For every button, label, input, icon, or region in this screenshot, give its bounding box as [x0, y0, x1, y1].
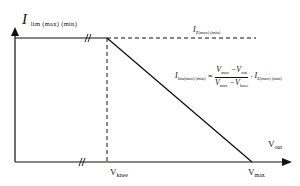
x-axis-arrow-icon — [282, 158, 292, 166]
formula-fraction: Vmax −Vout Vmax −Vknee — [215, 66, 248, 88]
tick-label-vmax: Vmax — [248, 168, 265, 178]
y-axis-arrow-icon — [11, 27, 19, 36]
x-axis-label: Vout — [268, 140, 282, 150]
top-line-label: IZ(max) (min) — [193, 26, 220, 36]
falloff-line — [107, 38, 252, 162]
limit-formula: Ilim(max) (min) = Vmax −Vout Vmax −Vknee… — [175, 66, 282, 88]
tick-label-vknee: Vknee — [110, 168, 128, 178]
y-axis-label: I lim (max) (min) — [22, 12, 77, 28]
diagram-canvas — [0, 0, 300, 186]
